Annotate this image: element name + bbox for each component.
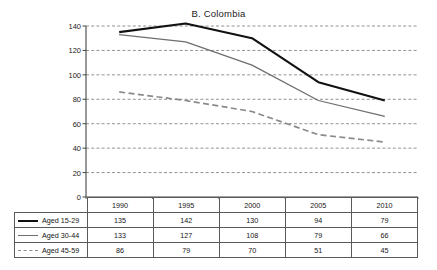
legend-item-aged-15-29: Aged 15-29 [15, 213, 88, 228]
table-cell: 135 [87, 213, 153, 228]
table-col-header: 2010 [351, 198, 417, 213]
series-line [119, 24, 385, 101]
table-cell: 86 [87, 243, 153, 258]
data-table: 1990 1995 2000 2005 2010 Aged 15-29 135 … [14, 197, 418, 258]
legend-item-aged-30-44: Aged 30-44 [15, 228, 88, 243]
legend-label: Aged 45-59 [42, 246, 79, 255]
table-cell: 130 [219, 213, 285, 228]
chart-figure: B. Colombia 140 120 100 80 60 40 20 0 19… [0, 0, 437, 270]
plot-area: 140 120 100 80 60 40 20 0 [86, 26, 418, 197]
table-row: Aged 30-44 133 127 108 79 66 [15, 228, 418, 243]
legend-swatch-dashed-icon [18, 247, 38, 254]
y-tick-label: 40 [55, 144, 81, 153]
legend-item-aged-45-59: Aged 45-59 [15, 243, 88, 258]
table-cell: 79 [153, 243, 219, 258]
y-tick-label: 60 [55, 119, 81, 128]
y-tick-label: 140 [55, 22, 81, 31]
legend-label: Aged 30-44 [42, 231, 79, 240]
chart-title: B. Colombia [0, 8, 437, 19]
table-cell: 142 [153, 213, 219, 228]
table-cell: 79 [285, 228, 351, 243]
y-tick-label: 100 [55, 70, 81, 79]
y-tick-label: 20 [55, 168, 81, 177]
table-cell: 79 [351, 213, 417, 228]
series-line [119, 35, 385, 117]
table-cell: 108 [219, 228, 285, 243]
table-cell: 51 [285, 243, 351, 258]
gridlines [86, 26, 418, 173]
series-lines [119, 24, 385, 142]
table-col-header: 1995 [153, 198, 219, 213]
table-cell: 70 [219, 243, 285, 258]
plot-svg [86, 26, 418, 197]
table-header-row: 1990 1995 2000 2005 2010 [15, 198, 418, 213]
legend-swatch-solid-thin-icon [18, 232, 38, 239]
table-row: Aged 45-59 86 79 70 51 45 [15, 243, 418, 258]
table-col-header: 1990 [87, 198, 153, 213]
table-cell: 133 [87, 228, 153, 243]
legend-swatch-solid-thick-icon [18, 217, 38, 224]
table-col-header: 2005 [285, 198, 351, 213]
table-cell: 127 [153, 228, 219, 243]
table-row: Aged 15-29 135 142 130 94 79 [15, 213, 418, 228]
y-tick-label: 80 [55, 95, 81, 104]
table-corner-cell [15, 198, 88, 213]
table-cell: 94 [285, 213, 351, 228]
y-tick-label: 120 [55, 46, 81, 55]
table-col-header: 2000 [219, 198, 285, 213]
legend-label: Aged 15-29 [42, 216, 79, 225]
table-cell: 66 [351, 228, 417, 243]
table-cell: 45 [351, 243, 417, 258]
